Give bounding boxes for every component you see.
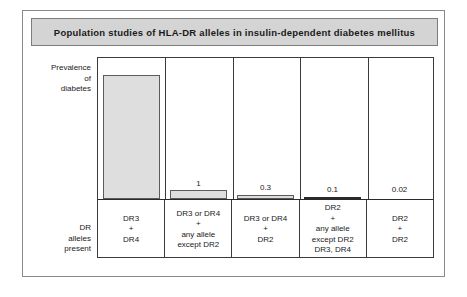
plot-area: 10 1 0.3 0.1 0.02 bbox=[97, 57, 434, 258]
bar-group-2: 0.3 bbox=[232, 58, 299, 199]
bar-value-label: 1 bbox=[165, 179, 232, 188]
column-divider bbox=[300, 58, 301, 199]
category-label: DR3 or DR4 + DR2 bbox=[244, 214, 288, 246]
figure-title: Population studies of HLA-DR alleles in … bbox=[54, 27, 415, 38]
bar-group-4: 0.02 bbox=[366, 58, 433, 199]
column-divider bbox=[368, 58, 369, 199]
bar bbox=[170, 190, 227, 199]
bar-value-label: 0.1 bbox=[299, 185, 366, 194]
table-cell: DR3 + DR4 bbox=[98, 200, 164, 257]
figure-panel: Population studies of HLA-DR alleles in … bbox=[22, 10, 445, 277]
table-cell: DR2 + any allele except DR2 DR3, DR4 bbox=[299, 200, 366, 257]
category-label: DR2 + DR2 bbox=[392, 214, 408, 246]
category-label: DR3 + DR4 bbox=[123, 214, 139, 246]
category-label: DR3 or DR4 + any allele except DR2 bbox=[177, 209, 221, 251]
figure-title-bar: Population studies of HLA-DR alleles in … bbox=[31, 18, 438, 46]
column-divider bbox=[165, 58, 166, 199]
bar-group-0: 10 bbox=[98, 58, 165, 199]
table-cell: DR3 or DR4 + any allele except DR2 bbox=[164, 200, 231, 257]
category-label: DR2 + any allele except DR2 DR3, DR4 bbox=[312, 203, 354, 256]
bars-container: 10 1 0.3 0.1 0.02 bbox=[98, 58, 433, 199]
bar-group-3: 0.1 bbox=[299, 58, 366, 199]
y-axis-label: Prevalence of diabetes bbox=[23, 63, 91, 95]
bar-value-label: 0.02 bbox=[366, 185, 433, 194]
table-cell: DR3 or DR4 + DR2 bbox=[231, 200, 298, 257]
column-divider bbox=[233, 58, 234, 199]
categories-table: DR3 + DR4 DR3 or DR4 + any allele except… bbox=[98, 200, 433, 257]
bar-group-1: 1 bbox=[165, 58, 232, 199]
x-axis-label: DR alleles present bbox=[23, 223, 91, 255]
table-cell: DR2 + DR2 bbox=[366, 200, 433, 257]
bar-value-label: 0.3 bbox=[232, 183, 299, 192]
bar bbox=[103, 75, 160, 199]
